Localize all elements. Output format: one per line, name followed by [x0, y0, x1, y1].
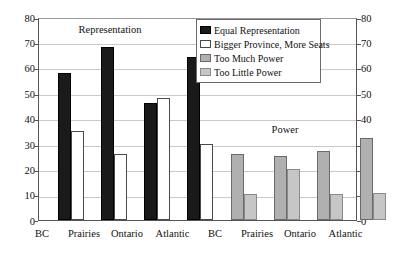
bar-too-little-atlantic	[373, 193, 386, 220]
y-axis-left-tick-80: 80	[9, 14, 35, 24]
legend-item-equal-representation: Equal Representation	[200, 23, 316, 37]
tick-mark-right	[357, 44, 361, 45]
tick-mark-right	[357, 221, 361, 222]
y-axis-left-tick-10: 10	[9, 191, 35, 201]
legend-item-bigger-province-more-seats: Bigger Province, More Seats	[200, 37, 316, 51]
legend-label-equal-representation: Equal Representation	[214, 25, 300, 36]
bar-bigger-prov-ontario	[157, 98, 170, 220]
bar-too-little-ontario	[330, 194, 343, 220]
y-axis-left-tick-0: 0	[9, 217, 35, 227]
y-axis-left-tick-40: 40	[9, 115, 35, 125]
bar-bigger-prov-bc	[71, 131, 84, 220]
legend-label-too-little-power: Too Little Power	[214, 67, 282, 78]
y-axis-right-tick-40: 40	[361, 115, 387, 125]
tick-mark-right	[357, 120, 361, 121]
legend-label-bigger-province-more-seats: Bigger Province, More Seats	[214, 39, 330, 50]
bar-too-little-prairies	[287, 169, 300, 220]
bar-bigger-prov-atlantic	[200, 144, 213, 220]
y-axis-left-tick-60: 60	[9, 64, 35, 74]
legend-swatch-bigger-province-icon	[200, 40, 211, 48]
section-note-representation: Representation	[55, 24, 165, 35]
section-note-power: Power	[240, 124, 330, 135]
bar-too-much-ontario	[317, 151, 330, 220]
bar-too-much-prairies	[274, 156, 287, 220]
y-axis-right-tick-60: 60	[361, 64, 387, 74]
bar-equal-rep-ontario	[144, 103, 157, 220]
bar-too-much-bc	[231, 154, 244, 220]
bar-equal-rep-bc	[58, 73, 71, 220]
y-axis-left-tick-70: 70	[9, 39, 35, 49]
tick-mark-right	[357, 19, 361, 20]
x-axis-label-pow-atlantic: Atlantic	[318, 228, 373, 239]
y-axis-left-tick-20: 20	[9, 166, 35, 176]
bar-equal-rep-prairies	[101, 47, 114, 220]
tick-mark-right	[357, 69, 361, 70]
bar-bigger-prov-prairies	[114, 154, 127, 220]
y-axis-right-tick-70: 70	[361, 39, 387, 49]
y-axis-left-tick-30: 30	[9, 141, 35, 151]
legend-swatch-too-much-power-icon	[200, 54, 211, 62]
y-axis-right-tick-50: 50	[361, 90, 387, 100]
legend-label-too-much-power: Too Much Power	[214, 53, 283, 64]
bar-too-little-bc	[244, 194, 257, 220]
legend: Equal Representation Bigger Province, Mo…	[196, 19, 321, 83]
tick-mark-right	[357, 95, 361, 96]
y-axis-left-tick-50: 50	[9, 90, 35, 100]
legend-swatch-equal-representation-icon	[200, 26, 211, 34]
legend-item-too-little-power: Too Little Power	[200, 65, 316, 79]
bar-chart: 80 70 60 50 40 30 20 10 0 80 70 60 50 40…	[0, 0, 395, 253]
legend-swatch-too-little-power-icon	[200, 68, 211, 76]
y-axis-right-tick-80: 80	[361, 14, 387, 24]
bar-too-much-atlantic	[360, 138, 373, 220]
legend-item-too-much-power: Too Much Power	[200, 51, 316, 65]
tick-mark-left	[34, 221, 38, 222]
